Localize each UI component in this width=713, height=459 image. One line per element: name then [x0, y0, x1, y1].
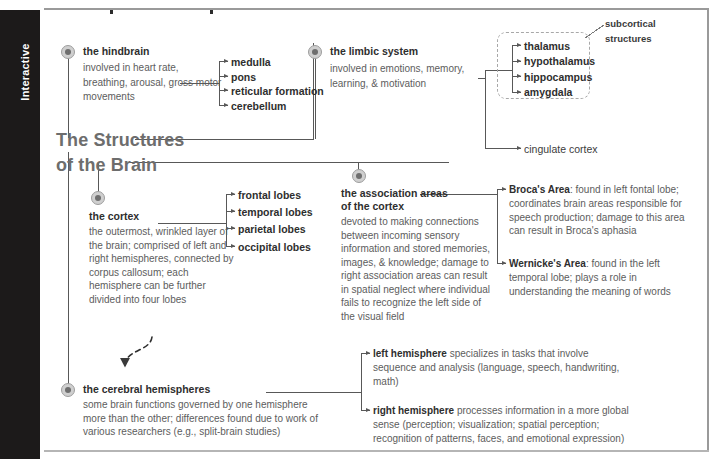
leaf-right-hemisphere-term: right hemisphere — [373, 405, 454, 416]
leaf-left-hemisphere[interactable]: left hemisphere specializes in tasks tha… — [373, 347, 623, 388]
leaf-left-hemisphere-term: left hemisphere — [373, 348, 447, 359]
node-dot-limbic-system[interactable] — [308, 45, 322, 59]
node-heading-cerebral-hemispheres: the cerebral hemispheres — [83, 383, 210, 396]
node-dot-association-areas[interactable] — [352, 169, 366, 183]
leaf-reticular-formation[interactable]: reticular formation — [231, 85, 324, 97]
node-dot-hindbrain[interactable] — [61, 45, 75, 59]
leaf-cingulate-cortex[interactable]: cingulate cortex — [524, 143, 598, 155]
leaf-pons[interactable]: pons — [231, 71, 256, 83]
subcortical-caption-line-1: subcortical — [605, 16, 656, 31]
leaf-frontal-lobes[interactable]: frontal lobes — [238, 189, 301, 201]
leaf-cerebellum[interactable]: cerebellum — [231, 100, 286, 112]
leaf-occipital-lobes[interactable]: occipital lobes — [238, 241, 311, 253]
leaf-brocas-area-term: Broca's Area — [509, 184, 570, 195]
node-dot-cortex[interactable] — [91, 191, 105, 205]
page-title: The Structures of the Brain — [56, 128, 184, 178]
node-body-cerebral-hemispheres: some brain functions governed by one hem… — [83, 398, 328, 439]
node-body-cortex: the outermost, wrinkled layer of the bra… — [89, 225, 239, 306]
node-body-limbic-system: involved in emotions, memory, learning, … — [330, 62, 490, 91]
page-title-line-2: of the Brain — [56, 153, 184, 178]
leaf-medulla[interactable]: medulla — [231, 56, 271, 68]
dashed-pointer-arrow — [125, 337, 152, 366]
leaf-wernickes-area[interactable]: Wernicke's Area: found in the left tempo… — [509, 257, 699, 298]
node-body-association-areas: devoted to making connections between in… — [341, 215, 493, 323]
subcortical-caption-line-2: structures — [605, 31, 656, 46]
leaf-wernickes-area-term: Wernicke's Area — [509, 258, 586, 269]
node-heading-hindbrain: the hindbrain — [83, 45, 150, 58]
leaf-temporal-lobes[interactable]: temporal lobes — [238, 206, 313, 218]
leaf-right-hemisphere[interactable]: right hemisphere processes information i… — [373, 404, 648, 445]
leaf-hippocampus[interactable]: hippocampus — [524, 71, 592, 83]
page-title-line-1: The Structures — [56, 128, 184, 153]
node-heading-association-areas-line-2: of the cortex — [341, 200, 404, 213]
leaf-thalamus[interactable]: thalamus — [524, 40, 570, 52]
interactive-concept-map: Interactive — [0, 0, 713, 459]
node-body-hindbrain: involved in heart rate, breathing, arous… — [83, 61, 223, 105]
node-heading-limbic-system: the limbic system — [330, 45, 418, 58]
leaf-parietal-lobes[interactable]: parietal lobes — [238, 223, 306, 235]
subcortical-caption: subcortical structures — [605, 16, 656, 46]
node-heading-association-areas-line-1: the association areas — [341, 187, 448, 200]
leaf-brocas-area[interactable]: Broca's Area: found in left fontal lobe;… — [509, 183, 699, 238]
node-dot-cerebral-hemispheres[interactable] — [61, 383, 75, 397]
leaf-amygdala[interactable]: amygdala — [524, 86, 572, 98]
node-heading-cortex: the cortex — [89, 210, 139, 223]
leaf-hypothalamus[interactable]: hypothalamus — [524, 55, 595, 67]
